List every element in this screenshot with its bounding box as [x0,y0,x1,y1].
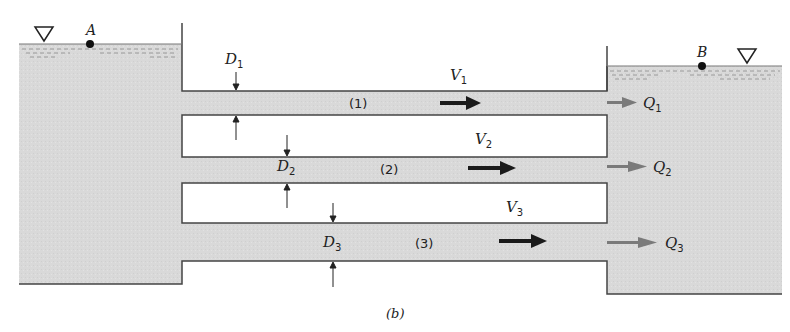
pipe-1-label: (1) [349,96,367,111]
parallel-pipes-diagram: A B D1 D2 D3 (1) (2) (3) V1 V2 V3 Q1 Q2 … [0,0,790,332]
pipe-2-label: (2) [380,162,398,177]
point-a-label: A [84,22,96,38]
free-surface-left-icon [35,27,53,41]
d1-label: D1 [224,50,243,70]
free-surface-right-icon [738,49,756,63]
point-b-label: B [696,44,707,60]
v1-label: V1 [450,66,467,86]
figure-caption: (b) [386,306,404,321]
point-b-marker [698,62,706,70]
point-a-marker [86,40,94,48]
pipe-3-label: (3) [415,236,433,251]
